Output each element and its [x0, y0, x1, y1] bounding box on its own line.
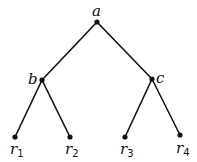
tree-diagram: abcr1r2r3r4 [0, 0, 197, 162]
label-r1: r1 [10, 140, 24, 159]
node-b [39, 77, 44, 82]
node-a [94, 19, 99, 24]
label-b: b [28, 70, 38, 88]
label-r3: r3 [120, 140, 134, 159]
node-r4 [177, 132, 182, 137]
edge-a-b [42, 22, 97, 80]
edge-c-r4 [152, 79, 180, 135]
node-r1 [12, 134, 17, 139]
edge-a-c [97, 22, 152, 79]
node-c [149, 76, 154, 81]
edge-b-r1 [15, 80, 42, 137]
label-a: a [92, 2, 101, 20]
edge-b-r2 [42, 80, 70, 137]
node-r2 [67, 134, 72, 139]
label-r4: r4 [176, 139, 190, 158]
label-r2: r2 [65, 140, 79, 159]
edge-c-r3 [125, 79, 152, 137]
label-c: c [156, 69, 165, 87]
node-r3 [122, 134, 127, 139]
